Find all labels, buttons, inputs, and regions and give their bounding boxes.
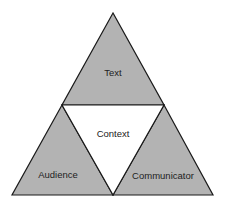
audience-label: Audience (38, 169, 78, 180)
text-triangle (62, 13, 164, 105)
communicator-label: Communicator (132, 170, 194, 181)
triangle-diagram: Text Context Audience Communicator (0, 0, 226, 210)
text-label: Text (104, 67, 122, 78)
context-label: Context (97, 128, 130, 139)
